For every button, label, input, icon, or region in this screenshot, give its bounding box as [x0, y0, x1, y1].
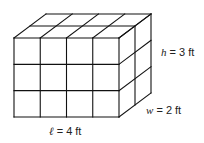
prism-diagram [0, 0, 204, 143]
height-label: h = 3 ft [161, 47, 194, 58]
length-label: ℓ = 4 ft [49, 126, 81, 137]
width-label: w = 2 ft [146, 105, 181, 116]
